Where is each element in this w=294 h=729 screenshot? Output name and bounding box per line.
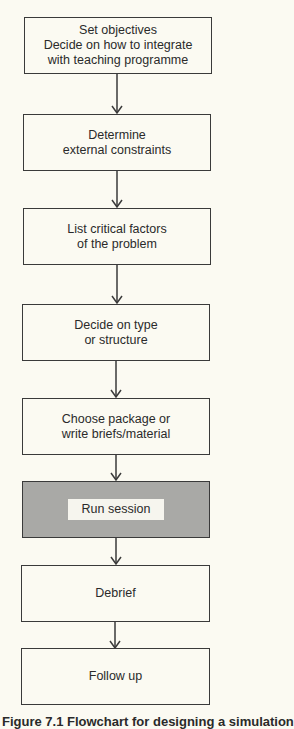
step-label: Run session xyxy=(68,499,165,520)
arrow-down-icon xyxy=(110,455,122,481)
arrow-down-icon xyxy=(110,361,122,398)
step-box-run-session: Run session xyxy=(22,481,210,538)
step-label: Debrief xyxy=(95,586,135,601)
arrow-down-icon xyxy=(109,622,121,649)
figure-caption: Figure 7.1 Flowchart for designing a sim… xyxy=(2,714,294,729)
step-box-type-structure: Decide on type or structure xyxy=(22,304,210,361)
step-box-critical-factors: List critical factors of the problem xyxy=(23,208,211,265)
arrow-down-icon xyxy=(111,265,123,304)
step-box-debrief: Debrief xyxy=(21,565,210,622)
arrow-down-icon xyxy=(110,538,122,565)
step-label: Decide on type or structure xyxy=(74,318,157,348)
step-label: List critical factors of the problem xyxy=(67,222,166,252)
arrow-down-icon xyxy=(111,171,123,208)
step-label: Determine external constraints xyxy=(63,128,171,158)
step-label: Choose package or write briefs/material xyxy=(62,412,170,442)
arrow-down-icon xyxy=(111,74,123,114)
step-box-follow-up: Follow up xyxy=(21,648,210,705)
step-label: Follow up xyxy=(89,669,143,684)
step-box-set-objectives: Set objectives Decide on how to integrat… xyxy=(24,17,212,74)
step-box-determine-constraints: Determine external constraints xyxy=(23,114,211,171)
step-box-choose-package: Choose package or write briefs/material xyxy=(22,398,210,455)
step-label: Set objectives Decide on how to integrat… xyxy=(44,23,193,68)
